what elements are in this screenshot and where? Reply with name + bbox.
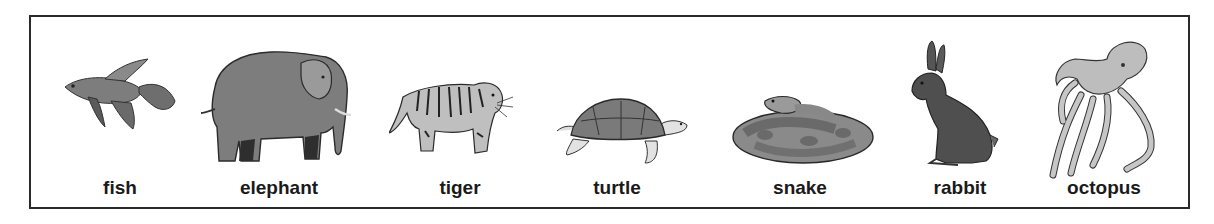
label-snake: snake bbox=[773, 177, 827, 199]
fish-icon bbox=[63, 57, 183, 137]
label-rabbit: rabbit bbox=[934, 177, 987, 199]
turtle-icon bbox=[553, 95, 693, 167]
snake-icon bbox=[725, 89, 875, 169]
tiger-icon bbox=[389, 67, 514, 167]
animal-panel: fish elephant tiger turtle snake rabbit … bbox=[29, 15, 1190, 209]
label-octopus: octopus bbox=[1067, 177, 1141, 199]
octopus-icon bbox=[1041, 35, 1171, 185]
label-turtle: turtle bbox=[593, 177, 641, 199]
label-fish: fish bbox=[103, 177, 137, 199]
elephant-icon bbox=[201, 47, 356, 177]
label-elephant: elephant bbox=[240, 177, 318, 199]
label-tiger: tiger bbox=[439, 177, 480, 199]
rabbit-icon bbox=[906, 39, 1001, 179]
